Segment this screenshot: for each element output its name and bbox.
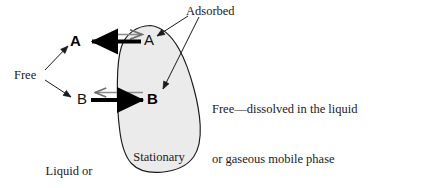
callout-leader-free-to-a [45,46,68,70]
stationary-phase-caption: Stationary phase particle [118,117,200,188]
stationary-phase-caption-line-1: Stationary [118,149,200,165]
definitions-legend: Free—dissolved in the liquid or gaseous … [212,68,422,188]
mobile-phase-caption-line-1: Liquid or [26,163,112,179]
callout-leader-adsorbed-to-a [157,16,188,36]
chromatography-diagram: A A B B Free Adsorbed Liquid or gas mobi… [0,0,425,188]
mobile-phase-caption: Liquid or gas mobile phase [26,131,112,188]
callout-leader-free-to-b [45,80,71,97]
callout-label-adsorbed: Adsorbed [186,4,235,19]
species-adsorbed-b: B [147,90,158,108]
species-adsorbed-a: A [144,31,154,49]
species-free-a: A [70,32,81,50]
species-free-b: B [77,90,87,108]
legend-line-2: or gaseous mobile phase [212,151,422,168]
legend-line-1: Free—dissolved in the liquid [212,101,422,118]
callout-label-free: Free [14,68,36,83]
